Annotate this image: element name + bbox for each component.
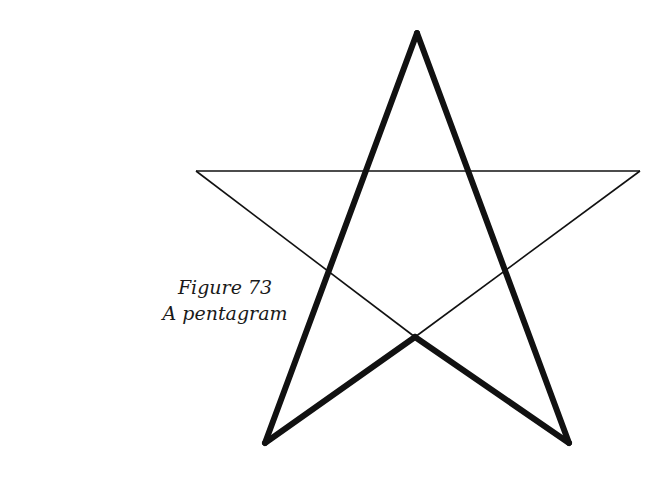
pentagram-diagram [0,0,671,478]
thick-line-inner_bottom-bottom_right [415,337,569,443]
thick-strokes [265,33,569,443]
figure-caption: Figure 73 A pentagram [150,274,300,326]
figure-title: A pentagram [150,300,300,326]
figure-number-label: Figure 73 [150,274,300,300]
thick-line-top-bottom_right [417,33,569,443]
thin-line-inner_bottom-right_tip [415,171,640,337]
thick-line-top-bottom_left [265,33,417,443]
